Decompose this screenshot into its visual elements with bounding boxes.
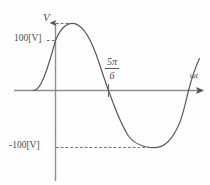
horizontal-axis-label: ωt <box>190 72 198 80</box>
sine-waveform-curve <box>34 23 200 147</box>
vertical-axis-label: V <box>43 12 50 23</box>
sinusoidal-voltage-waveform-figure: V ωt 100[V] -100[V] 5π 6 <box>0 0 210 185</box>
phase-marker-numerator: 5π <box>105 56 119 68</box>
phase-marker-denominator: 6 <box>105 70 119 82</box>
phase-marker-fraction: 5π 6 <box>105 56 119 81</box>
amplitude-negative-label: -100[V] <box>9 141 40 151</box>
amplitude-positive-label: 100[V] <box>14 34 41 44</box>
